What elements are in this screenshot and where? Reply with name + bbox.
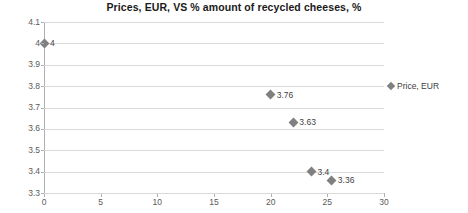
y-axis-tick-mark bbox=[41, 65, 44, 66]
x-axis-tick-mark bbox=[101, 194, 102, 197]
y-axis-tick-mark bbox=[41, 150, 44, 151]
chart-container: Prices, EUR, VS % amount of recycled che… bbox=[0, 0, 468, 213]
y-axis-tick-mark bbox=[41, 172, 44, 173]
plot-area: 43.763.633.43.36 bbox=[44, 22, 384, 193]
data-point-label: 4 bbox=[50, 39, 55, 48]
x-axis-tick-label: 5 bbox=[86, 197, 116, 207]
x-axis-tick-mark bbox=[384, 194, 385, 197]
x-axis-tick-label: 25 bbox=[312, 197, 342, 207]
data-point-label: 3.4 bbox=[317, 168, 329, 177]
data-point-marker[interactable] bbox=[288, 118, 298, 128]
y-axis-tick-mark bbox=[41, 86, 44, 87]
y-axis-tick-label: 3.7 bbox=[18, 103, 40, 112]
x-axis-tick-label: 30 bbox=[369, 197, 399, 207]
data-point-label: 3.76 bbox=[277, 91, 294, 100]
data-point-label: 3.63 bbox=[299, 118, 316, 127]
legend-label: Price, EUR bbox=[397, 81, 439, 91]
y-axis-tick-label: 3.5 bbox=[18, 146, 40, 155]
gridline-horizontal bbox=[44, 22, 384, 23]
legend-marker-icon bbox=[387, 82, 395, 90]
x-axis-tick-mark bbox=[327, 194, 328, 197]
gridline-horizontal bbox=[44, 65, 384, 66]
y-axis-tick-mark bbox=[41, 108, 44, 109]
gridline-horizontal bbox=[44, 108, 384, 109]
x-axis-tick-label: 15 bbox=[199, 197, 229, 207]
gridline-horizontal bbox=[44, 129, 384, 130]
gridline-horizontal bbox=[44, 172, 384, 173]
data-point-marker[interactable] bbox=[307, 167, 317, 177]
data-point-label: 3.36 bbox=[338, 176, 355, 185]
x-axis-tick-mark bbox=[271, 194, 272, 197]
x-axis-tick-label: 10 bbox=[142, 197, 172, 207]
gridline-horizontal bbox=[44, 43, 384, 44]
x-axis-tick-mark bbox=[157, 194, 158, 197]
y-axis-tick-label: 3.8 bbox=[18, 82, 40, 91]
y-axis-tick-label: 3.6 bbox=[18, 124, 40, 133]
gridline-horizontal bbox=[44, 150, 384, 151]
y-axis-tick-label: 4.1 bbox=[18, 18, 40, 27]
chart-title: Prices, EUR, VS % amount of recycled che… bbox=[0, 1, 468, 13]
chart-legend: Price, EUR bbox=[388, 81, 439, 91]
x-axis-tick-label: 20 bbox=[256, 197, 286, 207]
y-axis-tick-label: 3.4 bbox=[18, 167, 40, 176]
x-axis-tick-label: 0 bbox=[29, 197, 59, 207]
x-axis-tick-mark bbox=[214, 194, 215, 197]
x-axis-tick-mark bbox=[44, 194, 45, 197]
y-axis-tick-label: 3.9 bbox=[18, 60, 40, 69]
y-axis-tick-mark bbox=[41, 129, 44, 130]
y-axis-tick-mark bbox=[41, 43, 44, 44]
gridline-horizontal bbox=[44, 86, 384, 87]
y-axis-tick-labels: 3.33.43.53.63.73.83.944.1 bbox=[14, 0, 40, 213]
y-axis-tick-mark bbox=[41, 22, 44, 23]
data-point-marker[interactable] bbox=[266, 90, 276, 100]
data-point-marker[interactable] bbox=[327, 175, 337, 185]
y-axis-tick-label: 4 bbox=[18, 39, 40, 48]
